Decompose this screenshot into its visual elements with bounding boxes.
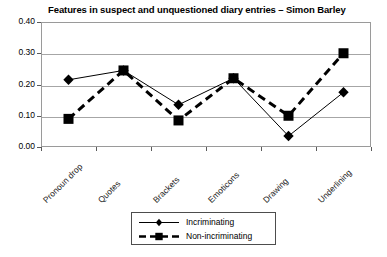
series-line — [69, 70, 344, 136]
y-axis-tick-labels: 0.000.100.200.300.40 — [0, 0, 35, 257]
data-point-diamond-marker — [63, 75, 73, 85]
legend-item-non-incriminating: Non-incriminating — [132, 229, 275, 244]
data-point-square-marker — [339, 48, 349, 58]
chart-title: Features in suspect and unquestioned dia… — [48, 4, 384, 16]
series-non-incriminating — [64, 48, 349, 125]
y-axis-tick-label: 0.30 — [3, 48, 35, 57]
x-axis-category-label: Emoticons — [206, 170, 241, 205]
data-point-diamond-marker — [173, 100, 183, 110]
y-axis-tick-label: 0.40 — [3, 17, 35, 26]
x-axis-category-label: Drawing — [261, 176, 290, 205]
x-axis-tick-mark — [41, 147, 42, 151]
chart-legend: Incriminating Non-incriminating — [131, 212, 276, 245]
legend-item-incriminating: Incriminating — [132, 215, 275, 230]
legend-swatch-square-icon — [137, 229, 181, 244]
y-axis-tick-label: 0.10 — [3, 111, 35, 120]
y-axis-tick-label: 0.20 — [3, 80, 35, 89]
x-axis-category-label: Quotes — [96, 179, 122, 205]
legend-swatch-diamond-icon — [137, 215, 181, 230]
x-axis-category-label: Pronoun drop — [41, 162, 84, 205]
series-plot — [41, 22, 371, 147]
data-point-square-marker — [229, 73, 239, 83]
data-point-diamond-marker — [338, 87, 348, 97]
series-line — [69, 53, 344, 120]
x-axis-tick-mark — [261, 147, 262, 151]
series-incriminating — [63, 65, 348, 141]
legend-label-non-incriminating: Non-incriminating — [186, 231, 252, 242]
x-axis-tick-mark — [371, 147, 372, 151]
x-axis-tick-mark — [151, 147, 152, 151]
x-axis-tick-mark — [206, 147, 207, 151]
data-point-square-marker — [174, 115, 184, 125]
y-axis-tick-label: 0.00 — [3, 142, 35, 151]
x-axis-tick-mark — [316, 147, 317, 151]
data-point-square-marker — [119, 65, 129, 75]
chart-container: Features in suspect and unquestioned dia… — [0, 0, 387, 257]
legend-label-incriminating: Incriminating — [186, 217, 234, 228]
x-axis-tick-mark — [96, 147, 97, 151]
data-point-square-marker — [64, 114, 74, 124]
x-axis-category-label: Brackets — [151, 175, 181, 205]
x-axis-category-label: Underlining — [316, 168, 353, 205]
data-point-square-marker — [284, 111, 294, 121]
